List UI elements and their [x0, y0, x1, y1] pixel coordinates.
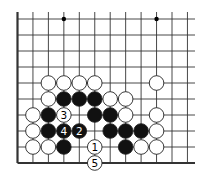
white-stone	[26, 108, 41, 123]
black-stone	[72, 92, 87, 107]
move-number: 5	[91, 157, 98, 169]
black-stone	[103, 108, 118, 123]
star-point	[154, 17, 158, 21]
white-stone	[149, 124, 164, 139]
move-number: 4	[61, 125, 68, 137]
star-point	[62, 17, 66, 21]
white-stone	[149, 76, 164, 91]
numbered-stone-3: 3	[57, 108, 72, 123]
black-stone	[118, 124, 133, 139]
move-number: 1	[91, 141, 98, 153]
black-stone	[118, 140, 133, 155]
numbered-stone-5: 5	[87, 156, 102, 171]
numbered-stone-1: 1	[87, 140, 102, 155]
white-stone	[41, 76, 56, 91]
white-stone	[26, 140, 41, 155]
black-stone	[57, 92, 72, 107]
white-stone	[149, 140, 164, 155]
move-number: 2	[76, 125, 83, 137]
black-stone	[41, 124, 56, 139]
black-stone	[87, 108, 102, 123]
white-stone	[41, 92, 56, 107]
numbered-stone-4: 4	[57, 124, 72, 139]
white-stone	[87, 76, 102, 91]
black-stone	[103, 124, 118, 139]
white-stone	[149, 108, 164, 123]
white-stone	[118, 92, 133, 107]
black-stone	[87, 92, 102, 107]
white-stone	[103, 92, 118, 107]
numbered-stone-2: 2	[72, 124, 87, 139]
black-stone	[57, 140, 72, 155]
white-stone	[41, 140, 56, 155]
go-board: 34215	[0, 0, 208, 184]
white-stone	[57, 76, 72, 91]
white-stone	[72, 76, 87, 91]
white-stone	[134, 140, 149, 155]
white-stone	[118, 108, 133, 123]
black-stone	[41, 108, 56, 123]
white-stone	[26, 124, 41, 139]
move-number: 3	[61, 109, 68, 121]
black-stone	[134, 124, 149, 139]
